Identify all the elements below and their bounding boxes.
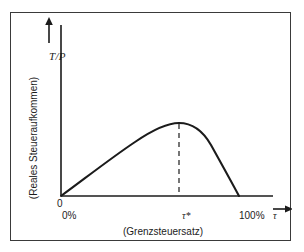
x-axis-caption-label: (Grenzsteuersatz) (11, 227, 304, 237)
x-tick-label-tau-star: τ* (182, 211, 191, 221)
y-axis-arrow-icon (45, 17, 53, 43)
laffer-curve-path (61, 123, 239, 196)
y-axis-caption-label: (Reales Steueraufkommen) (29, 73, 39, 203)
laffer-curve-figure: T/P (Reales Steueraufkommen) 0 0% τ* 100… (0, 0, 304, 252)
x-tick-label-hundred-percent: 100% (239, 211, 265, 221)
origin-label: 0 (57, 199, 63, 209)
chart-plot-area (11, 13, 292, 242)
y-axis-symbol-label: T/P (49, 51, 66, 62)
x-tick-label-zero-percent: 0% (62, 211, 76, 221)
chart-frame-border: T/P (Reales Steueraufkommen) 0 0% τ* 100… (10, 12, 291, 241)
x-axis-variable-label: τ (273, 211, 277, 221)
